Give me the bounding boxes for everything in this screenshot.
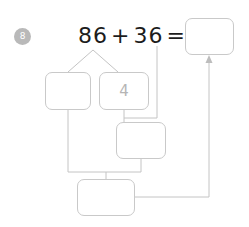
equation-expression: 86 + 36 = [78, 22, 189, 48]
worksheet-canvas: 8 86 + 36 = 4 [0, 0, 249, 227]
split-connector-86 [68, 50, 118, 72]
partial-sum-box[interactable] [116, 122, 166, 159]
decomposition-box-left[interactable] [45, 72, 91, 110]
arrowhead-icon [206, 55, 213, 63]
partial-sum-box-lower[interactable] [77, 179, 135, 216]
decomposition-box-right[interactable]: 4 [99, 72, 149, 110]
question-number-badge: 8 [14, 28, 31, 45]
final-answer-box[interactable] [185, 18, 234, 55]
connector-middle-to-bottom [106, 159, 141, 172]
addend-two: 36 [133, 23, 163, 48]
connector-left-to-bottom [68, 110, 106, 179]
plus-operator: + [108, 23, 133, 48]
addend-one: 86 [78, 23, 108, 48]
